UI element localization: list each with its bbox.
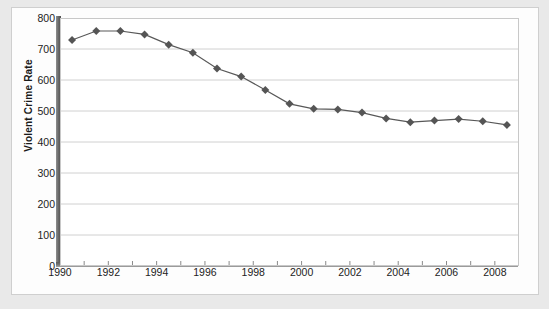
x-axis-tick-label: 1996 <box>182 266 228 278</box>
y-axis-tick-label: 700 <box>21 44 55 54</box>
x-axis-tick-label: 2008 <box>472 266 518 278</box>
y-axis-tick-label: 500 <box>21 106 55 116</box>
x-axis-tick-label: 2000 <box>279 266 325 278</box>
line-chart-svg <box>60 18 519 266</box>
chart-page: Violent Crime Rate 010020030040050060070… <box>0 0 549 309</box>
y-axis-tick-label: 800 <box>21 13 55 23</box>
y-axis-tick-label: 200 <box>21 199 55 209</box>
x-axis-tick-label: 1990 <box>37 266 83 278</box>
x-axis-tick-label: 1994 <box>134 266 180 278</box>
plot-area <box>60 18 519 266</box>
x-axis-tick-label: 2002 <box>327 266 373 278</box>
y-axis-tick-label: 400 <box>21 137 55 147</box>
y-axis-tick-label: 600 <box>21 75 55 85</box>
y-axis-tick-label: 300 <box>21 168 55 178</box>
x-axis-tick-label: 2004 <box>375 266 421 278</box>
x-axis-tick-label: 1992 <box>85 266 131 278</box>
x-axis-tick-label: 1998 <box>230 266 276 278</box>
y-axis-tick-labels: 0100200300400500600700800 <box>21 0 55 309</box>
x-axis-tick-label: 2006 <box>424 266 470 278</box>
y-axis-tick-label: 100 <box>21 230 55 240</box>
